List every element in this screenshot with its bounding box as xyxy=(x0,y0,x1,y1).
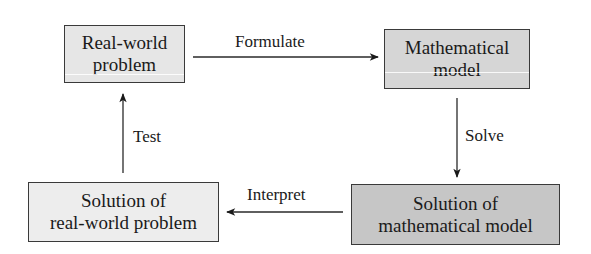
node-real-world-problem-line1: Real-world xyxy=(82,32,167,54)
node-solution-math-model-line2: mathematical model xyxy=(378,215,533,237)
node-solution-real-world-line1: Solution of xyxy=(81,190,166,212)
node-solution-real-world-problem: Solution of real-world problem xyxy=(28,182,219,242)
node-real-world-problem: Real-world problem xyxy=(64,25,185,83)
edge-label-solve: Solve xyxy=(465,126,504,146)
node-real-world-problem-line2: problem xyxy=(93,54,156,76)
scan-seam xyxy=(65,74,184,75)
node-mathematical-model-line1: Mathematical xyxy=(405,37,509,59)
node-solution-real-world-line2: real-world problem xyxy=(50,212,197,234)
edge-label-test: Test xyxy=(133,127,161,147)
node-solution-mathematical-model: Solution of mathematical model xyxy=(351,184,560,245)
node-solution-math-model-line1: Solution of xyxy=(413,193,498,215)
scan-seam xyxy=(385,72,529,73)
edge-label-formulate: Formulate xyxy=(235,32,305,52)
edge-label-interpret: Interpret xyxy=(247,185,306,205)
node-mathematical-model: Mathematical model xyxy=(384,29,530,89)
node-mathematical-model-line2: model xyxy=(433,59,481,81)
